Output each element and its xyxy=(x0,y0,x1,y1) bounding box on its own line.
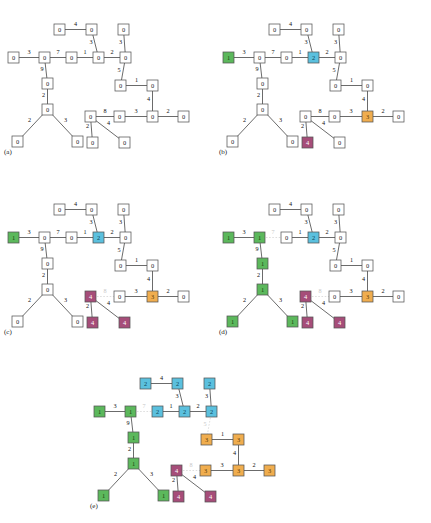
node-n_l1-c0: 0 xyxy=(254,52,265,63)
node-label: 0 xyxy=(334,82,337,89)
node-label: 0 xyxy=(70,234,73,241)
edge-weight-e_b0_bf2: 4 xyxy=(107,299,110,306)
graph-b: 433371292235148322400010020000000003040 xyxy=(217,8,417,158)
panel-a: 433371292235148322400000000000000000000(… xyxy=(2,8,202,158)
node-n_b0-c4: 4 xyxy=(300,291,311,302)
node-n_topB-c2: 2 xyxy=(172,378,183,389)
node-n_b0-c4: 4 xyxy=(171,465,182,476)
node-n_topC-c0: 0 xyxy=(118,24,129,35)
node-n_s1-c3: 3 xyxy=(201,434,212,445)
node-label: 0 xyxy=(90,206,93,213)
edge-weight-e_topA_topB: 4 xyxy=(74,20,77,27)
node-n_m1-c1: 1 xyxy=(257,258,268,269)
node-n_l0-c1: 1 xyxy=(223,232,234,243)
edge-weight-e_s2_b2: 4 xyxy=(362,95,365,102)
node-n_topB-c0: 0 xyxy=(301,24,312,35)
node-n_topA-c0: 0 xyxy=(269,24,280,35)
edge-weight-e_b2_b3: 2 xyxy=(381,107,384,114)
edge-weight-e_topB_l3: 3 xyxy=(175,392,178,399)
node-label: 0 xyxy=(58,206,61,213)
node-label: 0 xyxy=(151,82,154,89)
node-label: 1 xyxy=(129,408,132,415)
node-n_l1-c1: 1 xyxy=(125,406,136,417)
edge-weight-e_b1_b2: 3 xyxy=(349,107,352,114)
graph-a: 433371292235148322400000000000000000000 xyxy=(2,8,202,158)
edge-weight-e_l1_l2: 7 xyxy=(271,48,274,55)
node-label: 1 xyxy=(132,434,135,441)
node-n_m2-c1: 1 xyxy=(257,284,268,295)
node-n_b2-c3: 3 xyxy=(147,291,158,302)
edge-weight-e_l1_m1: 9 xyxy=(40,245,43,252)
node-label: 1 xyxy=(102,492,105,499)
node-n_m2-c0: 0 xyxy=(42,284,53,295)
node-n_l3-c0: 0 xyxy=(93,52,104,63)
node-label: 1 xyxy=(261,260,264,267)
node-n_bf2-c0: 0 xyxy=(119,137,130,148)
node-label: 0 xyxy=(333,113,336,120)
node-n_topA-c0: 0 xyxy=(269,204,280,215)
edge-weight-e_b1_b2: 3 xyxy=(134,287,137,294)
edge-weight-e_topA_topB: 4 xyxy=(289,200,292,207)
panel-e: 433371292235148322422211222111133433344(… xyxy=(88,362,288,512)
node-label: 0 xyxy=(58,26,61,33)
node-n_m2-c1: 1 xyxy=(128,458,139,469)
node-label: 1 xyxy=(98,408,101,415)
edge-weight-e_l0_l1: 3 xyxy=(242,228,245,235)
node-n_topC-c0: 0 xyxy=(333,204,344,215)
edge-weight-e_topB_l3: 3 xyxy=(304,218,307,225)
node-label: 0 xyxy=(43,234,46,241)
edge-weight-e_topB_l3: 3 xyxy=(89,218,92,225)
edge-weight-e_l3_r1: 2 xyxy=(325,228,328,235)
node-label: 0 xyxy=(16,138,19,145)
node-n_b3-c3: 3 xyxy=(264,465,275,476)
node-n_b1-c0: 0 xyxy=(329,291,340,302)
node-n_r1-c0: 0 xyxy=(335,52,346,63)
edge-weight-e_topA_topB: 4 xyxy=(289,20,292,27)
node-n_s1-c0: 0 xyxy=(115,80,126,91)
node-n_topA-c2: 2 xyxy=(140,378,151,389)
edge-weight-e_l1_l2: 7 xyxy=(56,48,59,55)
edge-weight-e_r1_s1: 5 xyxy=(332,246,335,253)
edge-weight-e_topB_l3: 3 xyxy=(89,38,92,45)
node-n_b3-c0: 0 xyxy=(393,111,404,122)
node-label: 1 xyxy=(12,234,15,241)
node-n_b1-c0: 0 xyxy=(329,111,340,122)
node-n_b2-c3: 3 xyxy=(362,111,373,122)
edge-weight-e_s1_s2: 1 xyxy=(350,76,353,83)
edge-weight-e_r1_s1: 5 xyxy=(117,66,120,73)
node-n_s2-c0: 0 xyxy=(147,80,158,91)
node-label: 0 xyxy=(119,82,122,89)
node-n_s1-c0: 0 xyxy=(330,80,341,91)
edge-weight-e_topA_topB: 4 xyxy=(74,200,77,207)
edge-weight-e_l1_m1: 9 xyxy=(40,65,43,72)
node-n_l3-c2: 2 xyxy=(308,232,319,243)
node-n_bf1-c4: 4 xyxy=(302,137,313,148)
node-label: 0 xyxy=(273,206,276,213)
edge-weight-e_l0_l1: 3 xyxy=(27,48,30,55)
node-n_topB-c0: 0 xyxy=(301,204,312,215)
edge-weight-e_m2_lf1: 2 xyxy=(114,470,117,477)
node-n_l2-c0: 0 xyxy=(66,52,77,63)
node-n_b1-c0: 0 xyxy=(114,291,125,302)
node-label: 1 xyxy=(261,286,264,293)
node-label: 1 xyxy=(132,460,135,467)
node-n_s2-c0: 0 xyxy=(362,80,373,91)
edge-weight-e_m2_lf1: 2 xyxy=(28,296,31,303)
node-n_r1-c0: 0 xyxy=(335,232,346,243)
node-n_l1-c0: 0 xyxy=(39,52,50,63)
node-label: 3 xyxy=(204,467,207,474)
node-label: 3 xyxy=(151,293,154,300)
node-label: 3 xyxy=(268,467,271,474)
edge-weight-e_b0_bf2: 4 xyxy=(322,119,325,126)
edge-weight-e_m1_m2: 2 xyxy=(42,91,45,98)
edge-weight-e_m1_m2: 2 xyxy=(257,91,260,98)
panel-caption-d: (d) xyxy=(219,328,227,336)
edge-weight-e_b0_b1: 8 xyxy=(103,107,106,114)
node-label: 0 xyxy=(333,293,336,300)
edge-weight-e_r1_s1: 5 xyxy=(332,66,335,73)
edge-weight-e_topC_r1: 3 xyxy=(205,392,208,399)
node-n_r1-c0: 0 xyxy=(120,52,131,63)
edge-weight-e_l0_l1: 3 xyxy=(27,228,30,235)
node-n_m1-c1: 1 xyxy=(128,432,139,443)
node-label: 0 xyxy=(43,54,46,61)
